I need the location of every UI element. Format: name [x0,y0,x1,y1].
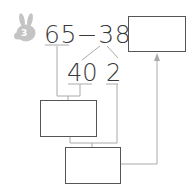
split-right-number: 2 [106,61,121,85]
step1-box[interactable] [40,100,97,137]
split-left-number: 40 [67,61,98,85]
answer-box[interactable] [128,16,186,52]
minuend: 65 [44,20,77,49]
arrow-up-icon [154,53,160,61]
operator: − [77,20,98,49]
badge-number: 3 [21,28,27,38]
step2-box[interactable] [65,147,121,184]
subtrahend: 38 [98,20,131,49]
